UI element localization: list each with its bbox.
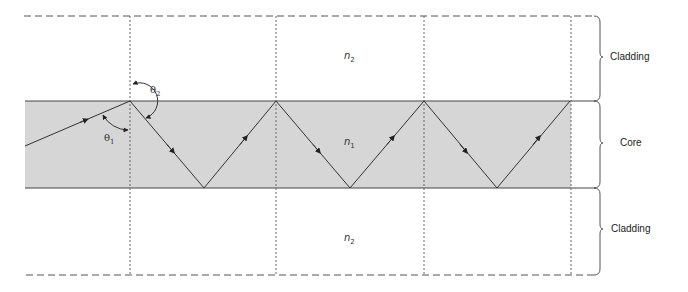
n1-subscript: 1: [350, 142, 354, 150]
n2-subscript: 2: [350, 238, 354, 246]
theta1-subscript: 1: [110, 138, 114, 146]
n2-bottom-label: n2: [344, 232, 355, 246]
n2-subscript: 2: [350, 56, 354, 64]
theta2-subscript: 2: [156, 90, 160, 98]
cladding-bottom-name: Cladding: [611, 223, 650, 234]
region-braces: [594, 16, 603, 275]
theta2-label: θ2: [150, 84, 161, 98]
core-name: Core: [620, 137, 642, 148]
cladding-top-name: Cladding: [610, 51, 649, 62]
theta1-label: θ1: [104, 132, 115, 146]
n2-top-label: n2: [344, 50, 355, 64]
n1-label: n1: [344, 136, 355, 150]
